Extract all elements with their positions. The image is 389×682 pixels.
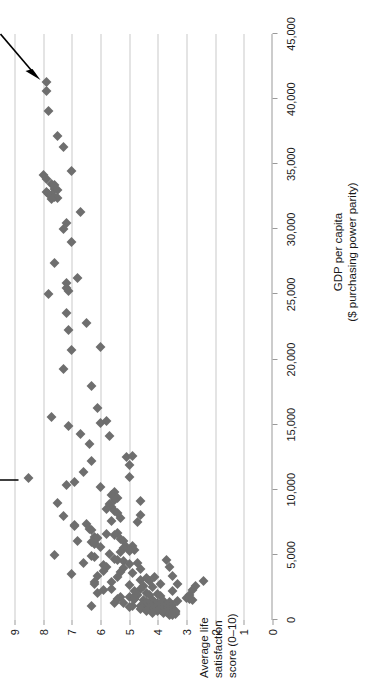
data-point <box>49 550 59 560</box>
data-point <box>86 456 96 466</box>
y-tick-mark-1 <box>243 620 244 625</box>
y-tick-label-1: 1 <box>237 629 249 635</box>
gridline-y-7 <box>71 34 72 620</box>
data-point <box>41 86 51 96</box>
x-tick-mark-0 <box>272 619 277 620</box>
x-tick-mark-5,000 <box>272 554 277 555</box>
y-tick-mark-6 <box>100 620 101 625</box>
x-tick-mark-10,000 <box>272 489 277 490</box>
x-tick-mark-25,000 <box>272 293 277 294</box>
y-tick-label-3: 3 <box>180 629 192 635</box>
data-point <box>58 224 68 234</box>
x-tick-mark-15,000 <box>272 424 277 425</box>
scatter-chart: US Costa Rica 0123456789 05,00010,00015,… <box>0 0 389 682</box>
gridline-y-3 <box>186 34 187 620</box>
gridline-y-8 <box>43 34 44 620</box>
data-point <box>66 569 76 579</box>
y-tick-mark-7 <box>71 620 72 625</box>
gridline-y-6 <box>100 34 101 620</box>
data-point <box>167 586 177 596</box>
data-point <box>78 558 88 568</box>
x-tick-mark-30,000 <box>272 228 277 229</box>
gridline-y-1 <box>243 34 244 620</box>
data-point <box>78 467 88 477</box>
data-point <box>84 439 94 449</box>
data-point <box>72 273 82 283</box>
data-point <box>49 258 59 268</box>
y-tick-mark-5 <box>129 620 130 625</box>
data-point <box>58 142 68 152</box>
y-tick-mark-3 <box>186 620 187 625</box>
annotation-arrow-costa-rica <box>0 462 26 492</box>
y-tick-mark-9 <box>14 620 15 625</box>
y-tick-mark-8 <box>43 620 44 625</box>
y-tick-mark-4 <box>157 620 158 625</box>
data-point <box>135 497 145 507</box>
data-point <box>43 106 53 116</box>
y-axis-title-line-1: Average life <box>196 528 210 678</box>
x-tick-label-30,000: 30,000 <box>284 213 296 247</box>
data-point <box>43 290 53 300</box>
data-point <box>52 131 62 141</box>
data-point <box>95 342 105 352</box>
x-tick-label-0: 0 <box>284 617 296 623</box>
data-point <box>115 513 125 523</box>
data-point <box>95 482 105 492</box>
data-point <box>46 412 56 422</box>
x-tick-label-20,000: 20,000 <box>284 343 296 377</box>
x-axis-title: GDP per capita ($ purchasing power parit… <box>330 122 358 382</box>
y-tick-label-9: 9 <box>8 629 20 635</box>
data-point <box>75 207 85 217</box>
y-tick-label-8: 8 <box>37 629 49 635</box>
data-point <box>86 601 96 611</box>
data-point <box>124 472 134 482</box>
data-point <box>75 429 85 439</box>
x-tick-mark-40,000 <box>272 98 277 99</box>
y-tick-label-7: 7 <box>65 629 77 635</box>
x-tick-mark-35,000 <box>272 163 277 164</box>
data-point <box>58 511 68 521</box>
data-point <box>104 431 114 441</box>
y-tick-mark-0 <box>272 620 273 625</box>
gridline-y-9 <box>14 34 15 620</box>
x-tick-label-15,000: 15,000 <box>284 408 296 442</box>
x-tick-label-45,000: 45,000 <box>284 17 296 51</box>
x-tick-label-5,000: 5,000 <box>284 541 296 569</box>
y-axis-title-line-2: satisfaction <box>210 528 224 678</box>
data-point <box>127 568 137 578</box>
x-tick-mark-45,000 <box>272 33 277 34</box>
data-point <box>86 381 96 391</box>
x-tick-label-40,000: 40,000 <box>284 82 296 116</box>
x-tick-label-35,000: 35,000 <box>284 147 296 181</box>
y-tick-label-5: 5 <box>123 629 135 635</box>
data-point <box>52 498 62 508</box>
data-point <box>167 571 177 581</box>
data-point <box>58 364 68 374</box>
x-tick-label-25,000: 25,000 <box>284 278 296 312</box>
data-point <box>66 346 76 356</box>
y-axis-title: Average life satisfaction score (0–10) <box>196 528 238 678</box>
data-point <box>107 584 117 594</box>
data-point <box>81 318 91 328</box>
chart-figure-rotator: US Costa Rica 0123456789 05,00010,00015,… <box>0 0 389 682</box>
x-tick-mark-20,000 <box>272 359 277 360</box>
data-point <box>72 536 82 546</box>
x-axis-title-line-1: GDP per capita <box>330 122 344 382</box>
y-axis-title-line-3: score (0–10) <box>224 528 238 678</box>
data-point <box>101 504 111 514</box>
gridline-y-4 <box>157 34 158 620</box>
gridline-y-5 <box>129 34 130 620</box>
y-tick-label-4: 4 <box>151 629 163 635</box>
y-tick-label-6: 6 <box>94 629 106 635</box>
y-tick-label-0: 0 <box>266 629 278 635</box>
annotation-arrow-us <box>0 26 54 86</box>
x-axis-title-line-2: ($ purchasing power parity) <box>344 122 358 382</box>
x-tick-label-10,000: 10,000 <box>284 473 296 507</box>
data-point <box>66 166 76 176</box>
data-point <box>61 308 71 318</box>
data-point <box>66 237 76 247</box>
x-axis-tick-marks <box>272 34 278 620</box>
